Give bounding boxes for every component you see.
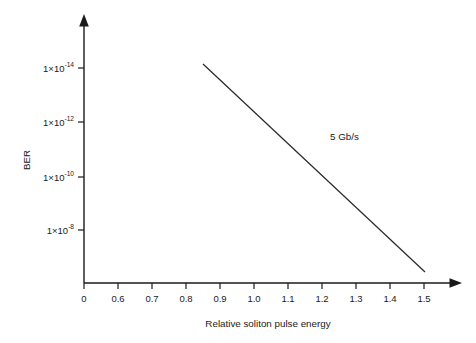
- x-tick-label: 1.0: [247, 293, 260, 304]
- x-axis-title: Relative soliton pulse energy: [205, 318, 330, 329]
- y-tick-label: 1×10-10: [43, 170, 74, 183]
- x-tick-label: 1.4: [383, 293, 396, 304]
- y-tick-exponent: -10: [64, 170, 74, 177]
- y-tick-base: 10: [54, 117, 65, 128]
- series-line-5gbs: [203, 64, 425, 272]
- x-tick-label: 0.6: [111, 293, 124, 304]
- series-group: [203, 64, 425, 272]
- x-axis-arrow-icon: [450, 278, 463, 288]
- x-tick-label: 1.1: [281, 293, 294, 304]
- x-tick-label: 0: [81, 293, 86, 304]
- x-tick-label-group: 0 0.6 0.7 0.8 0.9 1.0 1.1 1.2 1.3 1.4 1.…: [81, 293, 430, 304]
- y-tick-exponent: -12: [64, 115, 74, 122]
- x-tick-label: 0.9: [213, 293, 226, 304]
- x-axis-group: [84, 278, 462, 289]
- y-tick-base: 10: [54, 172, 65, 183]
- y-tick-base: 10: [58, 225, 69, 236]
- x-tick-label: 0.8: [179, 293, 192, 304]
- y-tick-label: 1×10-12: [43, 115, 74, 128]
- series-annotation-label: 5 Gb/s: [330, 131, 359, 142]
- y-axis-group: [78, 14, 89, 283]
- y-tick-base: 10: [54, 63, 65, 74]
- chart-figure: 1×10-14 1×10-12 1×10-10 1×10-8: [0, 0, 476, 343]
- y-tick-label: 1×10-14: [43, 61, 74, 74]
- x-tick-label: 1.2: [315, 293, 328, 304]
- y-axis-title: BER: [21, 150, 32, 170]
- y-tick-exponent: -14: [64, 61, 74, 68]
- chart-plot-area: 1×10-14 1×10-12 1×10-10 1×10-8: [0, 0, 476, 343]
- y-axis-arrow-icon: [79, 14, 89, 27]
- y-tick-label-group: 1×10-14 1×10-12 1×10-10 1×10-8: [43, 61, 74, 236]
- y-tick-exponent: -8: [68, 223, 74, 230]
- x-tick-label: 0.7: [145, 293, 158, 304]
- y-tick-label: 1×10-8: [47, 223, 75, 236]
- x-tick-label: 1.5: [417, 293, 430, 304]
- x-tick-label: 1.3: [349, 293, 362, 304]
